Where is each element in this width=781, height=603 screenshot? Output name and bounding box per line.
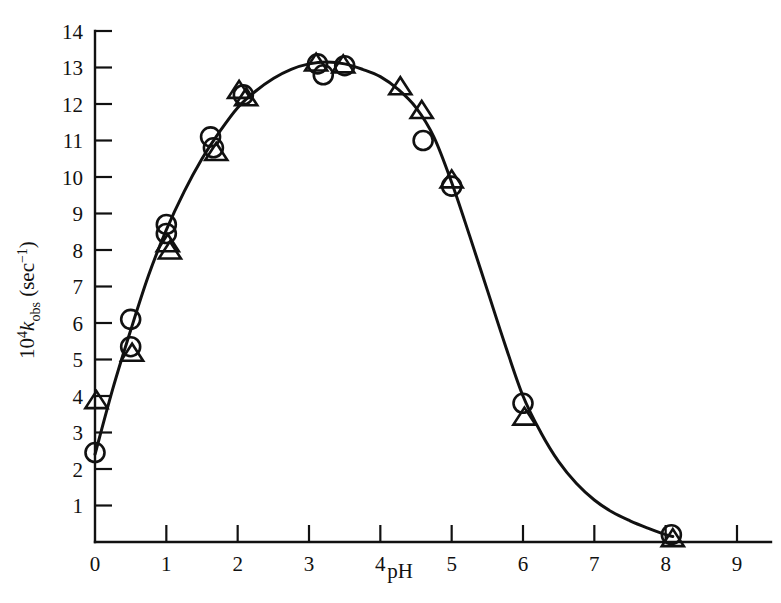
y-tick-label-8: 8: [73, 239, 84, 263]
y-axis-title: 104kobs (sec−1): [15, 241, 43, 359]
x-tick-label-2: 2: [232, 552, 243, 576]
fitted-curve: [95, 62, 673, 537]
x-tick-label-9: 9: [732, 552, 743, 576]
x-tick-label-1: 1: [161, 552, 172, 576]
x-tick-marks: [166, 525, 737, 542]
data-point-circle: [121, 310, 140, 329]
x-tick-label-0: 0: [90, 552, 101, 576]
y-tick-label-3: 3: [73, 421, 84, 445]
x-tick-label-6: 6: [518, 552, 529, 576]
y-tick-label-11: 11: [63, 129, 83, 153]
y-tick-label-13: 13: [62, 56, 83, 80]
ph-rate-profile-chart: 0123456789 1234567891011121314 pH 104kob…: [0, 0, 781, 603]
figure-root: 0123456789 1234567891011121314 pH 104kob…: [0, 0, 781, 603]
data-point-circle: [86, 443, 105, 462]
y-tick-label-5: 5: [73, 348, 84, 372]
x-tick-label-7: 7: [589, 552, 600, 576]
x-tick-label-4: 4: [375, 552, 386, 576]
y-tick-label-10: 10: [62, 166, 83, 190]
fitted-curve-path: [95, 62, 673, 537]
x-tick-label-5: 5: [446, 552, 457, 576]
y-tick-label-12: 12: [62, 93, 83, 117]
y-tick-labels: 1234567891011121314: [62, 20, 84, 519]
svg-text:104kobs (sec−1): 104kobs (sec−1): [15, 241, 43, 359]
x-tick-label-8: 8: [660, 552, 671, 576]
x-tick-label-3: 3: [304, 552, 315, 576]
y-tick-label-7: 7: [73, 275, 84, 299]
y-tick-label-2: 2: [73, 458, 84, 482]
x-tick-labels: 0123456789: [90, 552, 743, 576]
data-markers: [85, 54, 683, 547]
y-tick-label-14: 14: [62, 20, 84, 44]
data-point-triangle: [85, 391, 107, 408]
data-point-circle: [414, 131, 433, 150]
axes-group: [95, 31, 771, 542]
y-tick-label-1: 1: [73, 494, 84, 518]
y-tick-marks: [95, 31, 112, 506]
y-tick-label-6: 6: [73, 312, 84, 336]
y-tick-label-9: 9: [73, 202, 84, 226]
x-axis-title: pH: [387, 559, 413, 583]
y-tick-label-4: 4: [73, 385, 84, 409]
